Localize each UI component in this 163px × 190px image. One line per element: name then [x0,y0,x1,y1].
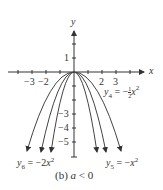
x-tick-label: −2 [38,77,49,87]
x-axis-label: x [149,66,153,76]
y-axis [71,31,77,157]
x-tick-label: −3 [24,77,35,87]
curve-label-y5: y5 = −x2 [106,158,138,168]
y-tick-label: −5 [58,137,69,147]
y-tick-label: −3 [58,109,69,119]
figure-caption: (b) a < 0 [55,170,93,181]
curve-label-y6: y6 = −2x2 [17,158,54,168]
curve-y6 [74,72,97,152]
curve-label-y4: y4 = −12x2 [104,86,139,99]
y-tick-label: −4 [58,123,69,133]
y-tick-label: 1 [64,53,69,63]
y-axis-label: y [71,17,75,27]
